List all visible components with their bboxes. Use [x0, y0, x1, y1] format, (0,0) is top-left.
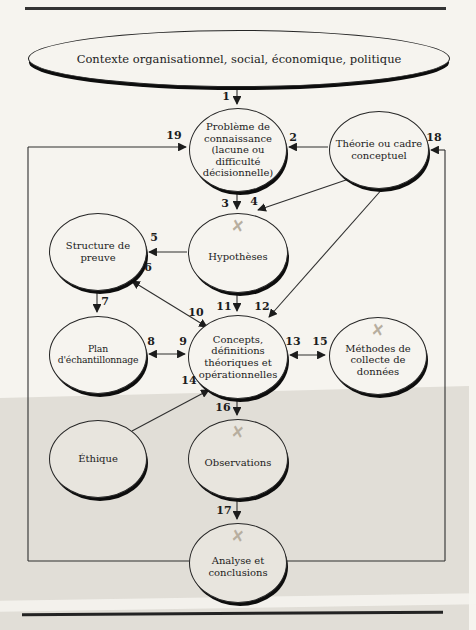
arrow-label-13: 13 — [285, 335, 300, 348]
arrow-label-19: 19 — [166, 129, 181, 142]
node-label-concepts: Concepts, définitions théoriques et opér… — [189, 334, 287, 380]
node-observations: ✕ Observations — [188, 419, 288, 499]
arrow-label-10: 10 — [188, 306, 203, 319]
arrow-label-4: 4 — [250, 195, 258, 208]
node-structure-de-preuve: Structure de preuve — [49, 213, 147, 291]
node-ethique: Éthique — [49, 420, 147, 498]
node-label-observations: Observations — [201, 457, 276, 469]
arrow-label-15: 15 — [312, 335, 327, 348]
arrow-label-14: 14 — [181, 374, 196, 387]
node-label-hypotheses: Hypothèses — [204, 251, 271, 263]
arrow-label-17: 17 — [216, 504, 231, 517]
pencil-x-mark: ✕ — [371, 320, 386, 339]
node-label-methodes: Méthodes de collecte de données — [330, 343, 426, 378]
node-label-theorie: Théorie ou cadre conceptuel — [330, 138, 428, 161]
node-concepts: Concepts, définitions théoriques et opér… — [188, 315, 288, 399]
arrow-6-10 — [132, 281, 207, 327]
node-probleme: Problème de connaissance (lacune ou diff… — [189, 108, 287, 192]
arrow-label-12: 12 — [254, 300, 269, 313]
arrow-label-3: 3 — [221, 197, 229, 210]
arrow-label-7: 7 — [101, 295, 109, 308]
node-label-plan: Plan d'échantillonnage — [50, 344, 146, 366]
node-theorie: Théorie ou cadre conceptuel — [329, 111, 429, 189]
node-label-ethique: Éthique — [74, 453, 122, 465]
node-hypotheses: ✕ Hypothèses — [188, 213, 288, 293]
arrow-label-18: 18 — [426, 131, 441, 144]
pencil-x-mark: ✕ — [231, 422, 246, 441]
arrow-label-11: 11 — [216, 300, 231, 313]
arrow-label-6: 6 — [144, 261, 152, 274]
node-label-probleme: Problème de connaissance (lacune ou diff… — [190, 121, 286, 179]
arrow-4 — [258, 180, 346, 210]
node-label-structure: Structure de preuve — [50, 240, 146, 263]
node-label-analyse: Analyse et conclusions — [190, 555, 286, 578]
pencil-x-mark: ✕ — [231, 216, 246, 235]
node-methodes-collecte: ✕ Méthodes de collecte de données — [329, 317, 427, 395]
arrow-14 — [132, 390, 209, 431]
page-top-rule — [25, 7, 446, 10]
node-analyse-conclusions: ✕ Analyse et conclusions — [189, 523, 287, 603]
node-plan-echantillonnage: Plan d'échantillonnage — [49, 316, 147, 394]
node-contexte: Contexte organisationnel, social, économ… — [28, 30, 450, 87]
node-label-contexte: Contexte organisationnel, social, économ… — [77, 52, 402, 66]
arrow-label-5: 5 — [150, 231, 158, 244]
arrow-label-16: 16 — [215, 401, 230, 414]
arrow-label-8: 8 — [147, 335, 155, 348]
arrow-label-9: 9 — [179, 335, 187, 348]
arrow-label-2: 2 — [289, 131, 297, 144]
pencil-x-mark: ✕ — [231, 526, 246, 545]
arrow-label-1: 1 — [222, 90, 230, 103]
